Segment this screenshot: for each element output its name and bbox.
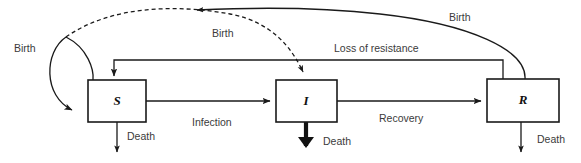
flow-birth-s-loop-arrow (50, 37, 72, 110)
sir-diagram-canvas: S I R Birth Birth Birth Loss of resistan… (0, 0, 581, 163)
sir-model-diagram: S I R Birth Birth Birth Loss of resistan… (0, 0, 581, 163)
label-birth-left: Birth (14, 42, 36, 54)
compartment-label-i: I (302, 93, 309, 108)
label-death-r: Death (537, 133, 565, 145)
flow-birth-dashed (66, 9, 303, 72)
flow-birth-s-loop-tail (66, 37, 93, 80)
label-birth-right: Birth (449, 11, 471, 23)
compartment-label-s: S (113, 93, 120, 108)
label-death-i: Death (323, 135, 351, 147)
label-birth-dashed: Birth (212, 27, 234, 39)
label-loss-of-resistance: Loss of resistance (334, 42, 419, 54)
label-death-s: Death (127, 130, 155, 142)
compartment-label-r: R (518, 92, 528, 107)
label-infection: Infection (192, 116, 232, 128)
flow-loss-of-resistance (114, 60, 503, 79)
label-recovery: Recovery (379, 112, 424, 124)
